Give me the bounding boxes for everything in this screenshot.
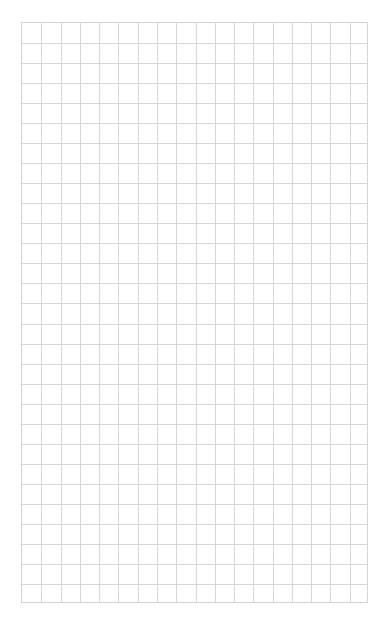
grid-horizontal-line xyxy=(22,444,367,445)
grid-horizontal-line xyxy=(22,143,367,144)
grid-vertical-line xyxy=(41,23,42,602)
grid-horizontal-line xyxy=(22,364,367,365)
grid-vertical-line xyxy=(215,23,216,602)
grid-horizontal-line xyxy=(22,303,367,304)
grid-horizontal-line xyxy=(22,564,367,565)
grid-vertical-line xyxy=(196,23,197,602)
grid-horizontal-line xyxy=(22,203,367,204)
grid-vertical-line xyxy=(99,23,100,602)
grid-vertical-line xyxy=(176,23,177,602)
grid-vertical-line xyxy=(138,23,139,602)
grid-horizontal-line xyxy=(22,584,367,585)
graph-paper-grid xyxy=(21,22,368,603)
grid-horizontal-line xyxy=(22,123,367,124)
grid-vertical-line xyxy=(80,23,81,602)
grid-vertical-line xyxy=(292,23,293,602)
grid-horizontal-line xyxy=(22,324,367,325)
grid-horizontal-line xyxy=(22,504,367,505)
grid-horizontal-line xyxy=(22,223,367,224)
grid-horizontal-line xyxy=(22,263,367,264)
grid-vertical-line xyxy=(330,23,331,602)
grid-vertical-line xyxy=(350,23,351,602)
grid-horizontal-line xyxy=(22,43,367,44)
grid-horizontal-line xyxy=(22,524,367,525)
grid-vertical-line xyxy=(273,23,274,602)
grid-horizontal-line xyxy=(22,344,367,345)
grid-horizontal-line xyxy=(22,283,367,284)
grid-vertical-line xyxy=(253,23,254,602)
grid-vertical-line xyxy=(157,23,158,602)
grid-horizontal-line xyxy=(22,163,367,164)
grid-horizontal-line xyxy=(22,384,367,385)
grid-horizontal-line xyxy=(22,424,367,425)
grid-vertical-line xyxy=(234,23,235,602)
grid-horizontal-line xyxy=(22,103,367,104)
grid-horizontal-line xyxy=(22,484,367,485)
grid-horizontal-line xyxy=(22,544,367,545)
grid-horizontal-line xyxy=(22,243,367,244)
grid-horizontal-line xyxy=(22,404,367,405)
grid-horizontal-line xyxy=(22,63,367,64)
grid-horizontal-line xyxy=(22,464,367,465)
grid-horizontal-line xyxy=(22,183,367,184)
grid-vertical-line xyxy=(311,23,312,602)
grid-vertical-line xyxy=(61,23,62,602)
grid-vertical-line xyxy=(118,23,119,602)
grid-horizontal-line xyxy=(22,83,367,84)
